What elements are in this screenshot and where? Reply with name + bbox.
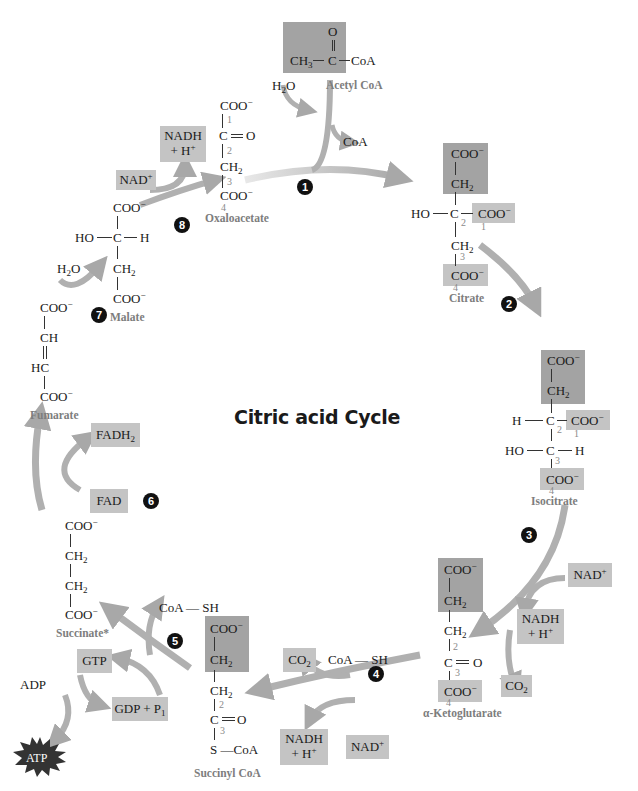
step-7-badge: 7	[91, 307, 107, 323]
step-8-badge: 8	[174, 217, 190, 233]
step-6-badge: 6	[143, 493, 159, 509]
oxaloacetate-name: Oxaloacetate	[205, 212, 269, 224]
coa-released: CoA	[343, 134, 368, 149]
succinate-name: Succinate*	[56, 627, 109, 639]
isocitrate-name: Isocitrate	[531, 495, 578, 507]
citrate-name: Citrate	[449, 292, 484, 304]
ketoglutarate-name: α-Ketoglutarate	[423, 707, 502, 719]
step-4-badge: 4	[368, 666, 384, 682]
malate-name: Malate	[110, 311, 144, 323]
step-5-badge: 5	[167, 633, 183, 649]
fumarate-name: Fumarate	[30, 409, 79, 421]
step-2-badge: 2	[501, 296, 517, 312]
acetyl-coa-name: Acetyl CoA	[326, 79, 383, 91]
step-3-badge: 3	[521, 527, 537, 543]
succinyl-coa-name: Succinyl CoA	[194, 767, 261, 779]
atp-label: ATP	[26, 751, 47, 766]
step-1-badge: 1	[297, 179, 313, 195]
diagram-title: Citric acid Cycle	[234, 406, 400, 428]
